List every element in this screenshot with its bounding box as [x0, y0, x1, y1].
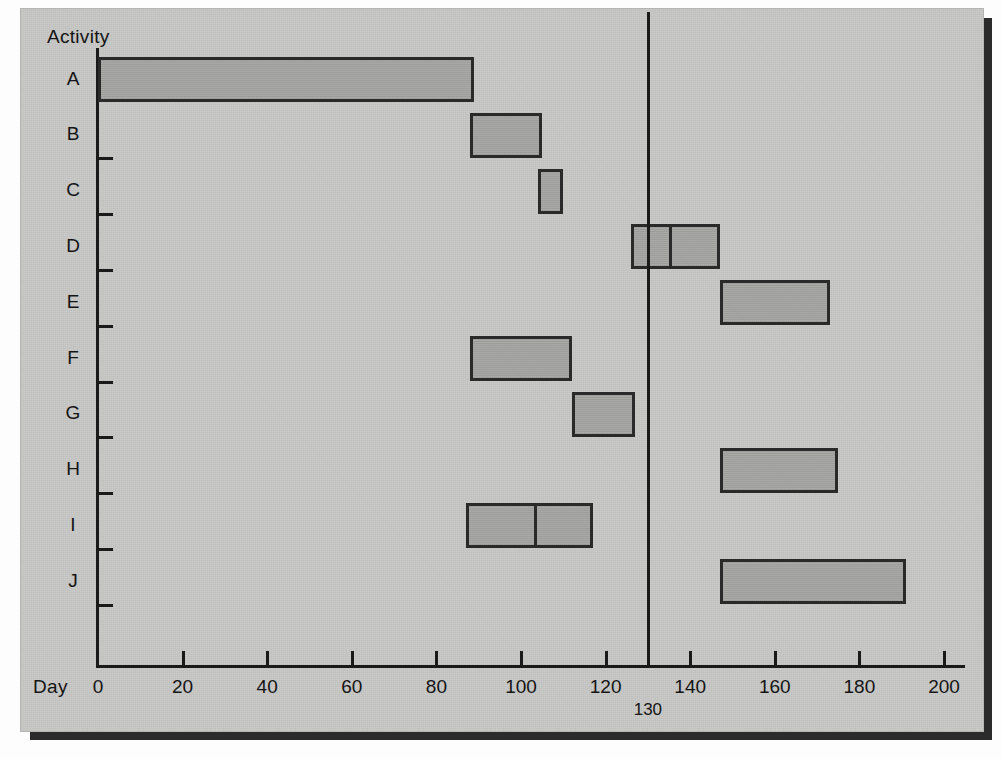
scanned-page: Activity Day ABCDEFGHIJ 0204060801001201… — [0, 0, 1002, 759]
y-axis-label-d: D — [58, 235, 88, 257]
gantt-bar-d-split-0 — [669, 227, 672, 266]
gantt-bar-j[interactable] — [720, 559, 906, 604]
gantt-bar-e[interactable] — [720, 280, 830, 325]
y-tick-h — [99, 492, 113, 495]
y-axis-label-f: F — [58, 347, 88, 369]
x-axis-label-20: 20 — [172, 676, 193, 698]
milestone-line-130 — [647, 12, 650, 665]
gantt-bar-h[interactable] — [720, 448, 838, 493]
x-axis-line — [96, 665, 965, 668]
y-axis-label-i: I — [58, 514, 88, 536]
gantt-bar-i-split-0 — [534, 506, 537, 545]
gantt-bar-g[interactable] — [572, 392, 635, 437]
x-tick-100 — [520, 651, 523, 665]
x-tick-120 — [605, 651, 608, 665]
x-axis-label-180: 180 — [844, 676, 876, 698]
y-tick-j — [99, 604, 113, 607]
x-tick-40 — [266, 651, 269, 665]
y-tick-f — [99, 381, 113, 384]
x-tick-200 — [943, 651, 946, 665]
gantt-bar-a[interactable] — [98, 57, 474, 102]
gantt-bar-c[interactable] — [538, 169, 563, 214]
x-axis-label-40: 40 — [257, 676, 278, 698]
milestone-label: 130 — [634, 700, 662, 720]
gantt-bar-i[interactable] — [466, 503, 593, 548]
y-axis-label-g: G — [58, 402, 88, 424]
x-tick-20 — [182, 651, 185, 665]
x-axis-label-100: 100 — [505, 676, 537, 698]
y-axis-label-h: H — [58, 458, 88, 480]
x-tick-60 — [351, 651, 354, 665]
y-tick-b — [99, 157, 113, 160]
x-tick-160 — [774, 651, 777, 665]
y-axis-label-j: J — [58, 570, 88, 592]
x-axis-label-120: 120 — [590, 676, 622, 698]
x-axis-label-80: 80 — [426, 676, 447, 698]
x-tick-180 — [858, 651, 861, 665]
y-tick-c — [99, 213, 113, 216]
gantt-chart: Activity Day ABCDEFGHIJ 0204060801001201… — [0, 0, 1002, 759]
x-tick-140 — [689, 651, 692, 665]
y-axis-label-a: A — [58, 68, 88, 90]
y-tick-e — [99, 325, 113, 328]
y-axis-label-c: C — [58, 179, 88, 201]
y-axis-title: Activity — [47, 26, 110, 48]
gantt-bar-b[interactable] — [470, 113, 542, 158]
x-axis-label-140: 140 — [674, 676, 706, 698]
y-tick-i — [99, 548, 113, 551]
x-axis-label-200: 200 — [928, 676, 960, 698]
y-tick-d — [99, 269, 113, 272]
gantt-bar-d[interactable] — [631, 224, 720, 269]
y-axis-line — [96, 48, 99, 665]
y-axis-label-e: E — [58, 291, 88, 313]
y-tick-g — [99, 436, 113, 439]
x-axis-label-60: 60 — [341, 676, 362, 698]
y-axis-label-b: B — [58, 123, 88, 145]
x-axis-label-160: 160 — [759, 676, 791, 698]
x-tick-80 — [435, 651, 438, 665]
x-axis-label-0: 0 — [93, 676, 104, 698]
x-axis-title: Day — [33, 676, 68, 698]
gantt-bar-f[interactable] — [470, 336, 572, 381]
